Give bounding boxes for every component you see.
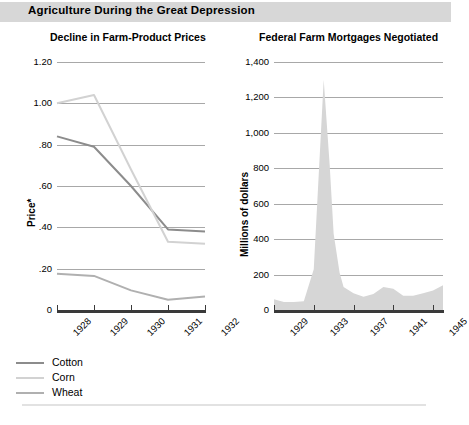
chart-title-farm-mortgages: Federal Farm Mortgages Negotiated (259, 31, 438, 43)
y-axis-label-millions-of-dollars: Millions of dollars (239, 172, 250, 257)
y-axis-tick-label: .40 (18, 222, 52, 231)
y-axis-tick-label: .80 (18, 140, 52, 149)
x-axis-tick-label: 1937 (368, 316, 389, 337)
legend-item-cotton: Cotton (16, 355, 83, 370)
y-axis-tick-label: 1.20 (18, 57, 52, 66)
x-axis-tick-label: 1929 (288, 316, 309, 337)
chart-title-farm-prices: Decline in Farm-Product Prices (50, 31, 206, 43)
x-axis-tick-label: 1931 (182, 316, 203, 337)
y-axis-tick-label: 1,200 (229, 92, 269, 101)
line-series-cotton (57, 136, 205, 231)
area-chart-federal-farm-mortgages: Millions of dollars 02004006008001,0001,… (225, 52, 451, 342)
y-axis-tick-label: 400 (229, 234, 269, 243)
legend-item-corn: Corn (16, 370, 83, 385)
footer-divider (22, 404, 426, 406)
y-axis-tick-label: 800 (229, 163, 269, 172)
y-axis-tick-label: .20 (18, 264, 52, 273)
plot-area-prices (57, 62, 205, 310)
y-axis-tick-label: 0 (229, 305, 269, 314)
chart-legend: CottonCornWheat (16, 355, 83, 400)
y-axis-tick-label: 1,000 (229, 128, 269, 137)
legend-swatch (16, 362, 44, 364)
legend-swatch (16, 392, 44, 394)
y-axis-tick-label: 600 (229, 199, 269, 208)
y-axis-tick-label: 1.00 (18, 98, 52, 107)
line-series-wheat (57, 274, 205, 300)
legend-swatch (16, 377, 44, 379)
x-axis-tick-label: 1933 (328, 316, 349, 337)
line-series-corn (57, 95, 205, 244)
series-lines-prices (57, 62, 205, 310)
legend-item-wheat: Wheat (16, 385, 83, 400)
legend-label: Corn (52, 372, 75, 383)
legend-label: Cotton (52, 357, 83, 368)
y-axis-tick-label: 200 (229, 270, 269, 279)
x-axis-line (274, 310, 444, 313)
x-axis-tick-label: 1941 (407, 316, 428, 337)
x-axis-tick-label: 1945 (447, 316, 468, 337)
y-axis-tick-label: 1,400 (229, 57, 269, 66)
legend-label: Wheat (52, 387, 82, 398)
x-axis-tick-label: 1928 (71, 316, 92, 337)
y-axis-tick-label: 0 (18, 305, 52, 314)
y-axis-tick-label: .60 (18, 181, 52, 190)
area-fill (274, 80, 443, 310)
x-axis-line (57, 310, 206, 313)
series-area-mortgages (274, 62, 443, 310)
x-axis-tick-label: 1929 (108, 316, 129, 337)
plot-area-mortgages (274, 62, 443, 310)
page-title: Agriculture During the Great Depression (28, 4, 255, 16)
line-chart-farm-product-prices: Price* 0.20.40.60.801.001.20 19281929193… (0, 52, 215, 342)
x-axis-tick-label: 1930 (145, 316, 166, 337)
